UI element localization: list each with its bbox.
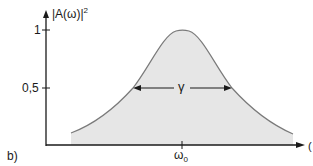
panel-label: b) [7, 150, 18, 162]
gamma-label: γ [178, 80, 185, 93]
y-axis-label-base: |A(ω)| [52, 7, 84, 21]
omega-symbol: ω [174, 148, 183, 162]
y-axis-arrow-icon [43, 10, 49, 18]
x-axis-label-truncated: ( [308, 141, 312, 152]
y-tick-label-0-5: 0,5 [22, 82, 39, 94]
omega-subscript: 0 [183, 155, 187, 164]
x-axis-arrow-icon [296, 142, 305, 148]
x-tick-label-omega0: ω0 [174, 149, 188, 164]
y-axis-label: |A(ω)|2 [52, 7, 88, 20]
chart-canvas [0, 0, 313, 166]
y-axis-label-exponent: 2 [84, 6, 88, 15]
y-tick-label-1: 1 [34, 24, 41, 36]
